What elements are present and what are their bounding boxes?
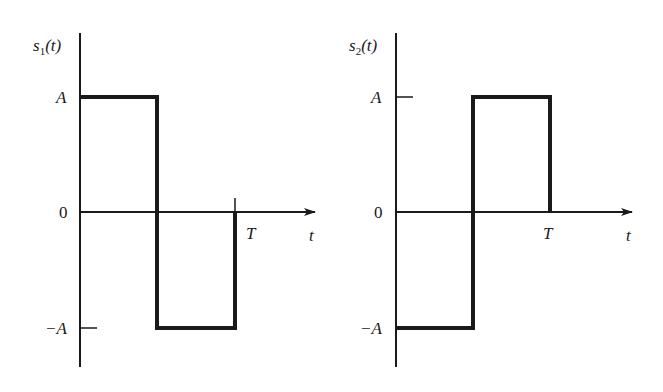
xlabel-t: t bbox=[309, 226, 315, 245]
ylabel-s1: s1(t) bbox=[33, 36, 62, 57]
tick-label-T: T bbox=[246, 224, 257, 243]
tick-label-A: A bbox=[55, 88, 67, 107]
tick-label-T: T bbox=[543, 224, 554, 243]
tick-label-zero: 0 bbox=[59, 203, 68, 222]
plot-s1: s1(t) A 0 −A T t bbox=[33, 33, 315, 367]
xlabel-t: t bbox=[626, 226, 632, 245]
tick-label-negA: −A bbox=[360, 319, 382, 338]
tick-label-A: A bbox=[370, 88, 382, 107]
tick-label-negA: −A bbox=[45, 319, 67, 338]
tick-label-zero: 0 bbox=[374, 203, 383, 222]
waveform-figure: s1(t) A 0 −A T t s2(t) A 0 −A T t bbox=[0, 0, 663, 392]
plot-s2: s2(t) A 0 −A T t bbox=[349, 33, 632, 367]
ylabel-s2: s2(t) bbox=[349, 36, 378, 57]
